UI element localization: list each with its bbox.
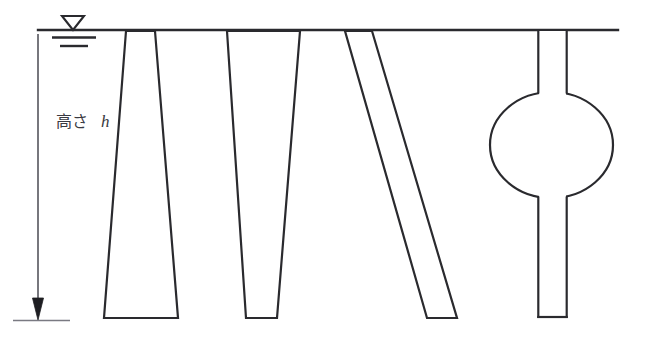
pile-shaft-body [539,31,566,318]
pile-flared-base [104,31,178,318]
height-label-jp: 高さ [56,113,88,130]
diagram-canvas: 高さ h [0,0,648,346]
height-dimension-line [13,34,70,321]
dimension-arrowhead-down-icon [33,298,44,320]
pile-tapered [227,31,300,318]
pile-bulbed [490,31,613,318]
pile-foundation-diagram: 高さ h [0,0,648,346]
pile-raked [345,31,457,318]
height-label-symbol: h [101,112,110,131]
water-table-triangle-icon [62,16,84,30]
